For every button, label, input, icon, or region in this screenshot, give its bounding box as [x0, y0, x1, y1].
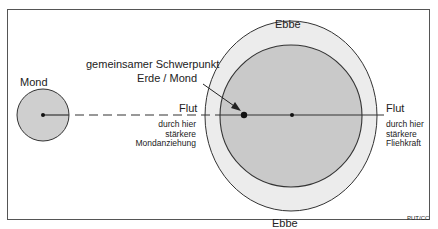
barycenter-label-line2: Erde / Mond — [86, 72, 197, 84]
tide-diagram — [0, 0, 438, 229]
moon-label: Mond — [20, 76, 48, 88]
left-note-line3: Mondanziehung — [120, 139, 196, 149]
left-note: durch hier stärkere Mondanziehung — [120, 120, 196, 149]
barycenter-label-line1: gemeinsamer Schwerpunkt — [86, 58, 205, 70]
right-note: durch hier stärkere Fliehkraft — [386, 120, 424, 149]
right-note-line3: Fliehkraft — [386, 139, 424, 149]
barycenter-dot — [241, 112, 247, 118]
flood-right-label: Flut — [386, 102, 404, 114]
ebb-bottom-label: Ebbe — [272, 217, 298, 229]
flood-left-label: Flut — [179, 102, 197, 114]
credit-label: PUT/CC — [407, 212, 429, 224]
ebb-top-label: Ebbe — [275, 18, 301, 30]
earth-center-dot — [290, 113, 294, 117]
moon-center-dot — [41, 113, 45, 117]
